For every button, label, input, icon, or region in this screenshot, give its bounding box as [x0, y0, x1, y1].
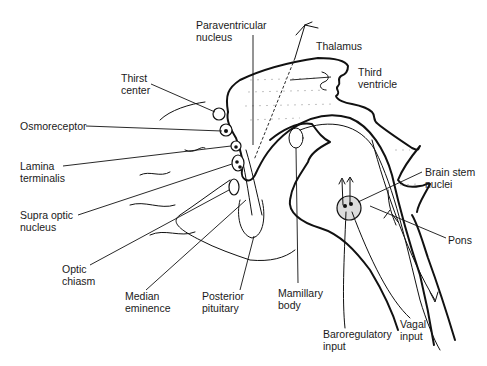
hypothalamus-inner	[227, 112, 434, 345]
leader-thirst-center	[151, 84, 215, 112]
leader-posterior-pituitary	[240, 236, 254, 290]
label-baroregulatory-input: Baroregulatory input	[323, 328, 392, 352]
label-brain-stem-nuclei: Brain stem nuclei	[425, 166, 475, 190]
supraoptic-dot2	[238, 165, 242, 169]
label-median-eminence: Median eminence	[125, 290, 171, 314]
vagal-tract	[352, 212, 410, 318]
lamina-dot	[234, 145, 238, 149]
optic-chiasm-shape	[229, 179, 239, 195]
brainstem-inner	[300, 124, 440, 350]
thalamus-fibers	[295, 22, 318, 58]
label-lamina-terminalis: Lamina terminalis	[20, 160, 65, 184]
baroregulatory-tract	[343, 212, 346, 328]
label-mamillary-body: Mamillary body	[278, 287, 323, 311]
leader-median-eminence	[146, 200, 246, 290]
label-thirst-center: Thirst center	[121, 72, 150, 96]
label-supra-optic-nucleus: Supra optic nucleus	[20, 209, 73, 233]
third-ventricle-wave	[320, 72, 328, 90]
leader-optic-chiasm	[90, 190, 229, 265]
leader-supraoptic	[78, 164, 232, 215]
stipple-shading	[245, 78, 418, 185]
mamillary-body-shape	[289, 128, 303, 148]
bsn-dot1	[343, 204, 347, 208]
osmoreceptor-dot	[224, 129, 228, 133]
supraoptic-dot	[235, 160, 239, 164]
thirst-center-shape	[213, 108, 225, 120]
cortex-gyri	[130, 102, 205, 235]
label-vagal-input: Vagal input	[400, 318, 426, 342]
label-posterior-pituitary: Posterior pituitary	[202, 290, 244, 314]
leader-lamina	[63, 146, 231, 166]
leader-third-ventricle	[290, 77, 331, 80]
leader-osmoreceptor	[86, 126, 222, 131]
label-thalamus: Thalamus	[316, 40, 362, 52]
label-paraventricular-nucleus: Paraventricular nucleus	[196, 19, 267, 43]
label-osmoreceptor: Osmoreceptor	[20, 120, 87, 132]
thalamus-outline	[227, 58, 430, 212]
brain-stem-nuclei-shape	[337, 196, 361, 220]
label-optic-chiasm: Optic chiasm	[62, 263, 95, 287]
label-pons: Pons	[448, 234, 472, 246]
label-third-ventricle: Third ventricle	[358, 66, 397, 90]
